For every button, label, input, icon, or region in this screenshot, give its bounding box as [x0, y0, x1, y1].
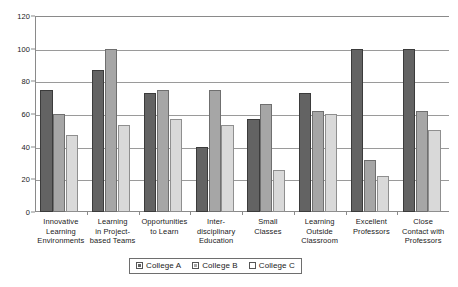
- x-tick-mark: [242, 212, 243, 215]
- bar[interactable]: [170, 119, 182, 212]
- x-tick-mark: [139, 212, 140, 215]
- bar[interactable]: [325, 114, 337, 212]
- x-tick-mark: [190, 212, 191, 215]
- bar[interactable]: [273, 170, 285, 212]
- x-axis-label-line: Innovative: [35, 217, 87, 227]
- bar[interactable]: [312, 111, 324, 212]
- bar[interactable]: [428, 130, 440, 212]
- bar[interactable]: [53, 114, 65, 212]
- x-axis-label-line: Classroom: [294, 236, 346, 246]
- bar[interactable]: [105, 49, 117, 212]
- x-axis-label-line: Close: [397, 217, 449, 227]
- y-tick-label-100: 100: [17, 44, 30, 53]
- bar[interactable]: [196, 147, 208, 212]
- x-axis-label-line: Learning: [294, 217, 346, 227]
- bar-group: [242, 16, 294, 212]
- y-tick-label-0: 0: [26, 208, 30, 217]
- bar[interactable]: [364, 160, 376, 212]
- x-axis-label: ExcellentProfessors: [346, 217, 398, 236]
- bar-group: [397, 16, 449, 212]
- legend-swatch-icon: [192, 262, 199, 269]
- x-axis-label-line: Contact with: [397, 227, 449, 237]
- bar[interactable]: [209, 90, 221, 213]
- bar-group: [346, 16, 398, 212]
- y-tick-label-20: 20: [21, 175, 30, 184]
- x-axis-label-line: Environments: [35, 236, 87, 246]
- x-axis-label-line: Outside: [294, 227, 346, 237]
- x-axis-label-line: Professors: [346, 227, 398, 237]
- bar-group: [294, 16, 346, 212]
- x-axis-label-line: Inter-: [190, 217, 242, 227]
- bar[interactable]: [260, 104, 272, 212]
- bar[interactable]: [351, 49, 363, 212]
- bars-layer: [35, 16, 449, 212]
- legend-entry[interactable]: College A: [136, 261, 181, 270]
- x-tick-mark: [294, 212, 295, 215]
- legend-swatch-icon: [136, 262, 143, 269]
- bar[interactable]: [377, 176, 389, 212]
- bar[interactable]: [247, 119, 259, 212]
- legend-label: College A: [146, 261, 181, 270]
- bar[interactable]: [66, 135, 78, 212]
- x-axis-label-line: Opportunities: [139, 217, 191, 227]
- x-tick-mark: [346, 212, 347, 215]
- x-axis-label-line: to Learn: [139, 227, 191, 237]
- x-axis-label: Inter-disciplinaryEducation: [190, 217, 242, 246]
- x-axis-label-line: Learning: [35, 227, 87, 237]
- bar-group: [190, 16, 242, 212]
- bar[interactable]: [416, 111, 428, 212]
- x-axis-label: InnovativeLearningEnvironments: [35, 217, 87, 246]
- x-axis-label: CloseContact withProfessors: [397, 217, 449, 246]
- y-tick-label-120: 120: [17, 12, 30, 21]
- bar[interactable]: [221, 125, 233, 212]
- x-axis-label-line: disciplinary: [190, 227, 242, 237]
- bar[interactable]: [403, 49, 415, 212]
- y-tick-label-60: 60: [21, 110, 30, 119]
- x-axis-label-line: in Project-: [87, 227, 139, 237]
- bar-group: [87, 16, 139, 212]
- x-axis-labels: InnovativeLearningEnvironmentsLearningin…: [35, 217, 449, 253]
- y-tick-label-80: 80: [21, 77, 30, 86]
- legend-label: College C: [259, 261, 295, 270]
- bar-group: [35, 16, 87, 212]
- y-tick-label-40: 40: [21, 142, 30, 151]
- x-axis-label-line: based Teams: [87, 236, 139, 246]
- legend-swatch-icon: [249, 262, 256, 269]
- x-axis-label: Learningin Project-based Teams: [87, 217, 139, 246]
- bar[interactable]: [299, 93, 311, 212]
- legend-entry[interactable]: College C: [249, 261, 295, 270]
- x-axis-label-line: Learning: [87, 217, 139, 227]
- x-tick-mark: [87, 212, 88, 215]
- x-tick-mark: [397, 212, 398, 215]
- legend-label: College B: [202, 261, 238, 270]
- bar-chart-figure: 020406080100120 InnovativeLearningEnviro…: [0, 0, 458, 287]
- bar[interactable]: [118, 125, 130, 212]
- bar[interactable]: [144, 93, 156, 212]
- bar[interactable]: [157, 90, 169, 213]
- bar[interactable]: [92, 70, 104, 212]
- x-axis-label: Opportunitiesto Learn: [139, 217, 191, 236]
- y-axis: 020406080100120: [0, 16, 35, 212]
- x-axis-label-line: Small: [242, 217, 294, 227]
- x-axis-label-line: Professors: [397, 236, 449, 246]
- x-axis-label-line: Classes: [242, 227, 294, 237]
- legend-entry[interactable]: College B: [192, 261, 238, 270]
- chart-legend: College ACollege BCollege C: [129, 258, 302, 274]
- x-axis-label: LearningOutsideClassroom: [294, 217, 346, 246]
- x-axis-label: SmallClasses: [242, 217, 294, 236]
- x-axis-label-line: Excellent: [346, 217, 398, 227]
- bar-group: [139, 16, 191, 212]
- x-axis-label-line: Education: [190, 236, 242, 246]
- bar[interactable]: [40, 90, 52, 213]
